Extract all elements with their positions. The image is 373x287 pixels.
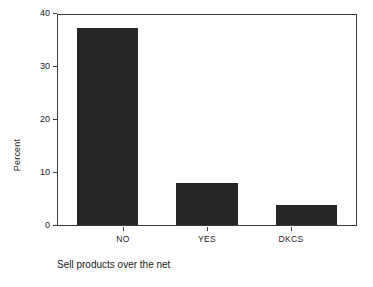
bar-dkcs[interactable]: [276, 205, 338, 225]
bar-no[interactable]: [77, 28, 139, 225]
x-tick-label-yes: YES: [167, 234, 247, 244]
x-tick-label-no: NO: [83, 234, 163, 244]
y-tick-label-0: 0: [45, 220, 50, 230]
x-tick-mark-dkcs: [291, 227, 292, 231]
bar-yes[interactable]: [176, 183, 238, 225]
y-tick-label-30: 30: [40, 61, 50, 71]
x-tick-label-dkcs: DKCS: [251, 234, 331, 244]
bar-chart-figure: Percent 40 30 20 10 0 NO YES DKCS Sell p…: [0, 0, 373, 287]
y-tick-label-40: 40: [40, 8, 50, 18]
y-tick-label-10: 10: [40, 167, 50, 177]
chart-caption: Sell products over the net: [57, 258, 170, 271]
y-axis-title: Percent: [12, 115, 22, 195]
plot-area: [57, 14, 357, 226]
x-tick-mark-no: [123, 227, 124, 231]
x-tick-mark-yes: [207, 227, 208, 231]
y-tick-label-20: 20: [40, 114, 50, 124]
